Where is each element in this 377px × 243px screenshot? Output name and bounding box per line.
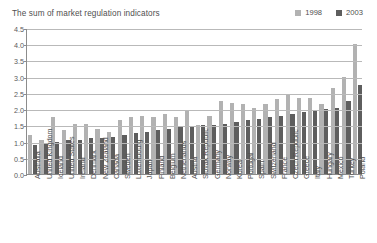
bar-group [307,29,318,174]
bar-group [229,29,240,174]
x-tick-label: Canada [113,154,121,179]
x-tick-label: New Zealand [102,137,110,179]
y-tickmark [24,29,27,30]
x-tick-label: Ireland [79,157,87,179]
y-tick-label: 2.0 [14,106,24,115]
y-tickmark [24,94,27,95]
x-tick-label: Norway [225,155,233,179]
x-tick-label: Slovak Republic [202,128,210,179]
x-tick-label: France [281,157,289,179]
y-tick-label: 0.0 [14,171,24,180]
x-tick-label: Switzerland [270,142,278,179]
x-tick-label: Japan [146,160,154,179]
x-tick-label: Germany [214,150,222,179]
bar-1998 [353,44,357,174]
x-tick-label: Italy [314,166,322,179]
y-tick-label: 2.5 [14,89,24,98]
gridline [27,45,362,46]
x-tick-label: Czech Republic [292,129,300,179]
bars-layer [27,29,362,174]
x-tick-label: Finland [158,156,166,179]
gridline [27,94,362,95]
x-tick-label: Poland [359,157,367,179]
gridline [27,78,362,79]
x-tick-label: Austria [191,157,199,179]
bar-1998 [319,104,323,174]
y-tickmark [24,61,27,62]
y-tickmark [24,110,27,111]
x-tick-label: Korea [236,160,244,179]
y-tick-label: 4.0 [14,41,24,50]
gridline [27,29,362,30]
y-tickmark [24,126,27,127]
x-tick-label: Portugal [247,153,255,179]
y-tick-label: 0.5 [14,154,24,163]
market-regulation-chart: The sum of market regulation indicators … [0,0,377,243]
x-tick-label: United Kingdom [46,129,54,179]
y-tickmark [24,175,27,176]
plot-wrapper: 0.00.51.01.52.02.53.03.54.04.5 Australia… [0,0,377,243]
gridline [27,126,362,127]
gridline [27,143,362,144]
x-tick-label: Belgium [169,153,177,179]
bar-1998 [28,135,32,174]
x-tick-label: Mexico [337,157,345,179]
bar-group [352,29,363,174]
plot-area [26,29,362,175]
y-tickmark [24,159,27,160]
x-tick-label: Luxembourg [135,140,143,179]
gridline [27,110,362,111]
bar-group [150,29,161,174]
y-tickmark [24,78,27,79]
y-tick-label: 4.5 [14,25,24,34]
x-tick-label: Turkey [348,158,356,179]
x-tick-label: Netherlands [180,141,188,179]
y-tick-label: 1.0 [14,138,24,147]
y-axis: 0.00.51.01.52.02.53.03.54.04.5 [0,0,26,243]
x-tick-label: Sweden [124,153,132,179]
x-tick-label: Iceland [57,156,65,179]
x-tick-label: Australia [34,151,42,179]
y-tick-label: 1.5 [14,122,24,131]
x-tick-label: United States [68,136,76,179]
bar-group [341,29,352,174]
gridline [27,61,362,62]
x-tick-label: Denmark [90,150,98,179]
y-tickmark [24,45,27,46]
y-tick-label: 3.0 [14,73,24,82]
y-tick-label: 3.5 [14,57,24,66]
x-tick-label: Hungary [326,152,334,179]
y-tickmark [24,143,27,144]
x-tick-label: Spain [258,161,266,179]
x-tick-label: Greece [303,156,311,179]
